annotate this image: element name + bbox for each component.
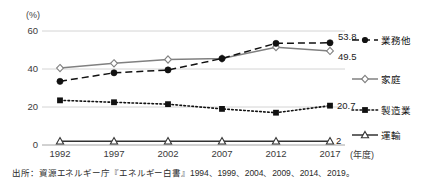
y-tick-label: 40 [12,63,38,74]
data-point [273,110,279,116]
data-point [165,56,172,63]
data-point [57,64,64,71]
data-point [165,101,171,107]
legend-marker-open-triangle-icon [352,129,378,141]
legend-label: 家庭 [381,72,401,86]
legend-marker-filled-square-icon [352,104,378,116]
data-point [57,97,63,103]
chart-legend: 業務他家庭製造業運輸 [352,0,425,160]
x-tick-label: 1997 [92,148,136,159]
x-tick-label: 2002 [146,148,190,159]
y-tick-label: 60 [12,25,38,36]
legend-item-業務他[interactable]: 業務他 [352,33,411,47]
data-point [219,106,225,112]
legend-label: 製造業 [381,103,411,117]
source-note: 出所：資源エネルギー庁『エネルギー白書』1994、1999、2004、2009、… [12,166,354,178]
legend-item-運輸[interactable]: 運輸 [352,128,401,142]
data-point [111,70,117,76]
data-point [111,99,117,105]
x-tick-label: 1992 [38,148,82,159]
data-point [57,78,63,84]
legend-marker-open-diamond-icon [352,73,378,85]
x-tick-label: 2017 [308,148,352,159]
data-point [327,103,333,109]
y-tick-label: 0 [12,139,38,150]
legend-item-家庭[interactable]: 家庭 [352,72,401,86]
legend-label: 業務他 [381,33,411,47]
data-point [111,60,118,67]
x-tick-label: 2007 [200,148,244,159]
x-tick-label: 2012 [254,148,298,159]
series-line-2 [60,100,330,112]
legend-marker-filled-circle-icon [352,34,378,46]
legend-item-製造業[interactable]: 製造業 [352,103,411,117]
series-end-label: 2 [336,135,341,146]
y-tick-label: 20 [12,101,38,112]
data-point [327,47,334,54]
energy-consumption-share-chart: (%) 0204060 199219972002200720122017 (年度… [0,0,425,191]
data-point [219,55,225,61]
data-point [165,67,171,73]
data-point [273,40,279,46]
data-point [327,40,333,46]
legend-label: 運輸 [381,128,401,142]
